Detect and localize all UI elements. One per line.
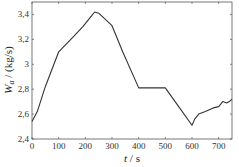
plot-border [32, 2, 232, 139]
y-axis-label: Wa / (kg/s) [2, 46, 16, 94]
x-tick-label: 700 [212, 141, 226, 151]
axis-ticks: 01002003004005006007002,42,62,833,23,4 [18, 2, 232, 151]
data-series [32, 12, 232, 125]
x-axis-label: t / s [124, 152, 140, 164]
x-tick-label: 0 [30, 141, 35, 151]
x-tick-label: 600 [185, 141, 199, 151]
x-tick-label: 300 [105, 141, 119, 151]
y-tick-label: 2,8 [18, 84, 30, 94]
y-tick-label: 2,6 [18, 109, 30, 119]
y-tick-label: 3,2 [18, 34, 29, 44]
line-chart: 01002003004005006007002,42,62,833,23,4 t… [0, 0, 239, 167]
y-tick-label: 3 [25, 59, 30, 69]
x-tick-label: 400 [132, 141, 146, 151]
x-tick-label: 100 [52, 141, 66, 151]
y-tick-label: 2,4 [18, 134, 30, 144]
series-line [32, 12, 232, 125]
x-tick-label: 500 [159, 141, 173, 151]
plot-frame [32, 2, 232, 139]
y-tick-label: 3,4 [18, 9, 30, 19]
x-tick-label: 200 [79, 141, 93, 151]
